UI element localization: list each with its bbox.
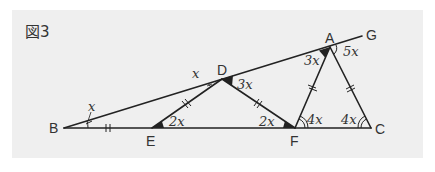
point-label-g: G	[366, 27, 377, 43]
angle-arc-f-right	[299, 119, 305, 128]
angle-label-b: x	[88, 99, 96, 114]
angle-arc-b	[87, 121, 88, 128]
angle-label-a-right: 5x	[343, 44, 359, 59]
point-label-c: C	[375, 121, 385, 137]
angle-arc-a	[334, 45, 337, 54]
angle-arc-c	[361, 119, 367, 128]
angle-label-f-left: 2x	[258, 114, 275, 129]
segment-ed	[152, 79, 222, 128]
angle-fill-f	[283, 121, 295, 128]
point-label-d: D	[217, 62, 227, 78]
angle-label-d: 3x	[237, 77, 253, 92]
angle-label-d-outer: x	[192, 66, 200, 81]
point-label-a: A	[325, 30, 335, 46]
point-label-e: E	[146, 133, 155, 149]
angle-label-e: 2x	[168, 114, 185, 129]
angle-label-f-right: 4x	[306, 112, 323, 127]
point-label-b: B	[49, 120, 58, 136]
angle-label-c: 4x	[340, 112, 357, 127]
point-label-f: F	[290, 133, 299, 149]
angle-fill-e	[152, 121, 164, 128]
geometry-diagram: A B C D E F G x x 3x 2x 2x 4x 4x 3x 5x	[0, 0, 435, 172]
angle-label-a-left: 3x	[304, 53, 320, 68]
